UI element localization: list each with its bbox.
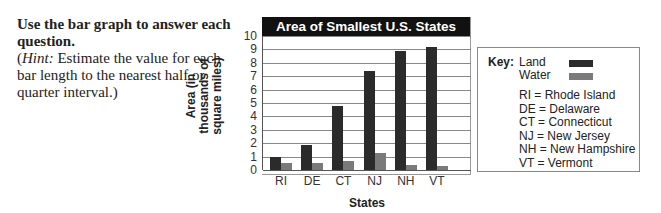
- y-axis-label-text: Area (in thousands of square miles): [185, 56, 224, 136]
- legend-land-swatch: [569, 60, 593, 67]
- bar-vt-water: [437, 166, 448, 170]
- gridline: [263, 36, 471, 37]
- bar-de-water: [312, 163, 323, 170]
- key-title: Key:: [488, 56, 514, 70]
- bar-de-land: [301, 145, 312, 170]
- key-abbr-vt: VT = Vermont: [519, 157, 592, 171]
- gridline: [263, 63, 471, 64]
- key-abbr-nh: NH = New Hampshire: [519, 143, 635, 157]
- x-axis-line: [263, 170, 471, 171]
- x-tick-label: DE: [297, 174, 327, 188]
- key-abbr-ri: RI = Rhode Island: [519, 89, 615, 103]
- y-tick-label: 2: [241, 137, 257, 149]
- y-tick-label: 6: [241, 84, 257, 96]
- y-tick-label: 4: [241, 110, 257, 122]
- hint-label: Hint:: [22, 50, 54, 66]
- bar-nh-land: [395, 51, 406, 170]
- y-axis-label: Area (in thousands of square miles): [185, 56, 224, 136]
- gridline: [263, 49, 471, 50]
- key-abbr-ct: CT = Connecticut: [519, 116, 612, 130]
- y-tick-label: 1: [241, 151, 257, 163]
- bar-ri-land: [270, 157, 281, 170]
- y-tick-label: 0: [241, 164, 257, 176]
- x-axis-label: States: [349, 196, 385, 210]
- key-abbr-de: DE = Delaware: [519, 103, 600, 117]
- key-abbr-nj: NJ = New Jersey: [519, 130, 610, 144]
- bar-chart: Area of Smallest U.S. States 01234567891…: [262, 17, 471, 175]
- y-tick-label: 5: [241, 97, 257, 109]
- y-tick-label: 3: [241, 124, 257, 136]
- bar-nh-water: [406, 165, 417, 170]
- legend-water-label: Water: [519, 69, 551, 83]
- x-tick-label: NJ: [360, 174, 390, 188]
- y-tick-label: 9: [241, 43, 257, 55]
- bar-ct-water: [343, 161, 354, 170]
- y-tick-label: 10: [241, 30, 257, 42]
- plot-area: 012345678910RIDECTNJNHVT: [262, 36, 471, 170]
- x-tick-label: VT: [422, 174, 452, 188]
- bar-nj-water: [375, 153, 386, 170]
- instructions-heading: Use the bar graph to answer each questio…: [17, 16, 232, 50]
- x-tick-label: RI: [266, 174, 296, 188]
- x-tick-label: NH: [391, 174, 421, 188]
- chart-title: Area of Smallest U.S. States: [262, 17, 470, 36]
- bar-ri-water: [281, 163, 292, 170]
- bar-ct-land: [332, 106, 343, 170]
- x-tick-label: CT: [328, 174, 358, 188]
- legend-key: Key: Land Water RI = Rhode Island DE = D…: [477, 47, 640, 172]
- legend-water-swatch: [569, 73, 593, 80]
- y-tick-label: 7: [241, 70, 257, 82]
- bar-nj-land: [364, 71, 375, 170]
- bar-vt-land: [426, 47, 437, 170]
- y-tick-label: 8: [241, 57, 257, 69]
